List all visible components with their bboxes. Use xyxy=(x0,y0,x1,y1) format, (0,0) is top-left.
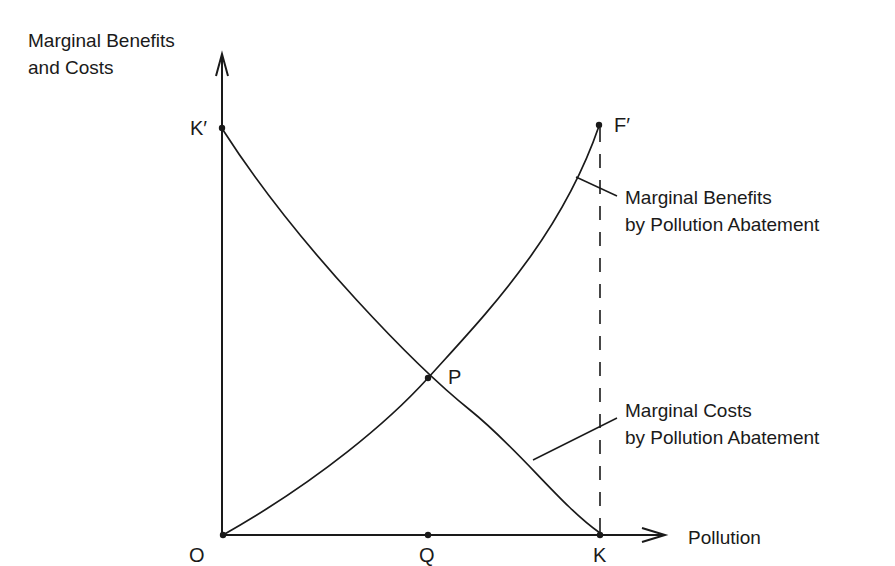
costs-leader-line xyxy=(533,418,617,460)
marginal-benefits-curve xyxy=(223,126,599,535)
label-k: K xyxy=(593,544,606,566)
point-k-marker xyxy=(597,532,603,538)
point-f-prime-marker xyxy=(596,122,602,128)
label-p: P xyxy=(448,366,461,388)
benefits-leader-line xyxy=(576,177,617,196)
benefits-label-line2: by Pollution Abatement xyxy=(625,213,819,236)
point-k-prime-marker xyxy=(219,125,225,131)
label-o: O xyxy=(189,544,205,566)
point-q-marker xyxy=(425,532,431,538)
costs-label-line2: by Pollution Abatement xyxy=(625,426,819,449)
label-k-prime: K′ xyxy=(190,117,207,139)
point-o-marker xyxy=(220,532,226,538)
x-axis-label: Pollution xyxy=(688,526,761,549)
label-f-prime: F′ xyxy=(614,114,630,136)
benefits-label-line1: Marginal Benefits xyxy=(625,186,772,209)
point-p-marker xyxy=(425,375,431,381)
marginal-costs-curve xyxy=(223,130,600,533)
label-q: Q xyxy=(419,544,435,566)
y-axis-label-line2: and Costs xyxy=(28,56,114,79)
y-axis-label-line1: Marginal Benefits xyxy=(28,29,175,52)
costs-label-line1: Marginal Costs xyxy=(625,399,752,422)
